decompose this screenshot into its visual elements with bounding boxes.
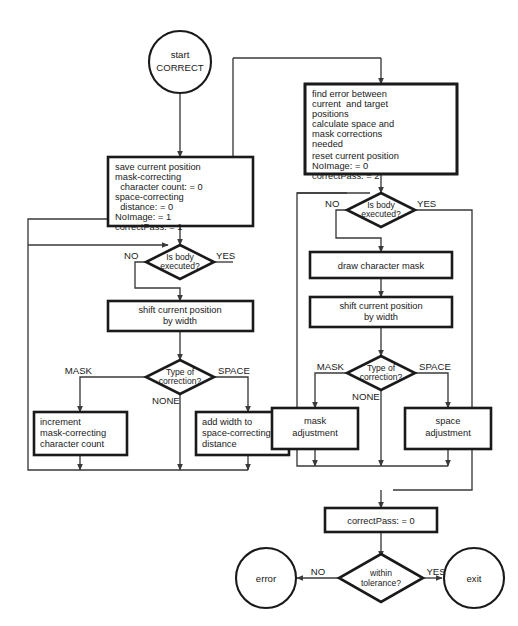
node-exit-label: exit xyxy=(467,573,482,584)
node-body-right-line-1: executed? xyxy=(361,209,401,219)
node-addwidth-line-1: space-correcting xyxy=(202,428,271,438)
node-increment-line-2: character count xyxy=(40,439,104,449)
edge-label-right-none: NONE xyxy=(352,391,380,402)
edge-label-tolerance-yes: YES xyxy=(426,566,445,577)
node-find-error-line-2: positions xyxy=(312,109,349,119)
node-find-error-line-8: NoImage: = 0 xyxy=(312,161,368,171)
node-find-error-line-4: mask corrections xyxy=(312,129,383,139)
edge-label-left-body-no: NO xyxy=(124,250,138,261)
node-type-right-line-1: correction? xyxy=(360,372,403,382)
connector-left-space-branch xyxy=(214,377,248,412)
edge-label-right-body-yes: YES xyxy=(417,198,436,209)
node-tolerance-line-0: within xyxy=(369,568,392,578)
connector-left-mask-branch xyxy=(80,377,146,412)
node-start-line-1: CORRECT xyxy=(156,62,204,73)
node-save-line-0: save current position xyxy=(115,162,201,172)
node-type-left-line-1: correction? xyxy=(159,376,202,386)
edge-label-right-space: SPACE xyxy=(419,361,451,372)
node-shift-left-line-1: by width xyxy=(163,316,197,326)
node-find-error-line-5: needed xyxy=(312,139,343,149)
node-body-left-line-1: executed? xyxy=(160,261,200,271)
node-increment-line-1: mask-correcting xyxy=(40,428,106,438)
node-save-line-2: character count: = 0 xyxy=(115,182,203,192)
node-find-error-line-3: calculate space and xyxy=(312,119,394,129)
node-increment-line-0: increment xyxy=(40,417,81,427)
node-drawmask-line-0: draw character mask xyxy=(338,261,425,271)
node-error-label: error xyxy=(256,573,277,584)
node-maskadj-line-0: mask xyxy=(304,416,327,426)
flowchart-page: start CORRECT save current position mask… xyxy=(0,0,518,626)
edge-label-left-none: NONE xyxy=(152,395,180,406)
node-find-error-line-0: find error between xyxy=(312,89,387,99)
node-spaceadj-line-0: space xyxy=(436,416,461,426)
node-save-line-3: space-correcting xyxy=(115,192,184,202)
connector-right-mask-branch xyxy=(315,373,347,408)
node-maskadj-line-1: adjustment xyxy=(292,428,338,438)
node-correctpass-line-0: correctPass: = 0 xyxy=(347,516,414,526)
node-shift-right-line-0: shift current position xyxy=(339,301,422,311)
node-addwidth-line-0: add width to xyxy=(202,417,252,427)
node-shift-left-line-0: shift current position xyxy=(138,305,221,315)
edge-label-right-mask: MASK xyxy=(317,361,345,372)
edge-label-tolerance-no: NO xyxy=(311,566,325,577)
node-spaceadj-line-1: adjustment xyxy=(425,428,471,438)
node-save-line-1: mask-correcting xyxy=(115,172,181,182)
edge-label-left-space: SPACE xyxy=(218,365,250,376)
edge-label-left-body-yes: YES xyxy=(216,250,235,261)
connector-right-space-branch xyxy=(415,373,448,408)
node-find-error-line-1: current and target xyxy=(312,99,388,109)
node-shift-right-line-1: by width xyxy=(364,312,398,322)
node-find-error-line-7: reset current position xyxy=(312,151,399,161)
node-save-line-5: NoImage: = 1 xyxy=(115,212,171,222)
node-save-line-6: correctPass: = 1 xyxy=(115,222,182,232)
node-addwidth-line-2: distance xyxy=(202,439,237,449)
node-tolerance-line-1: tolerance? xyxy=(361,578,401,588)
edge-label-left-mask: MASK xyxy=(65,365,93,376)
node-find-error-line-9: correctPass: = 2 xyxy=(312,171,379,181)
edge-label-right-body-no: NO xyxy=(325,198,339,209)
node-save-line-4: distance: = 0 xyxy=(115,202,173,212)
flowchart-canvas: start CORRECT save current position mask… xyxy=(0,0,518,626)
node-start-line-0: start xyxy=(171,49,190,60)
